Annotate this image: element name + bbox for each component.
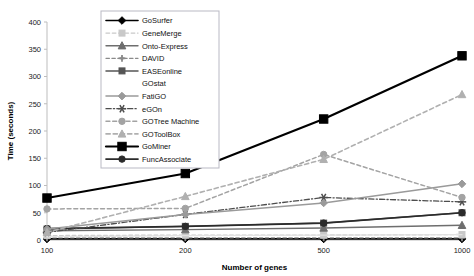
- marker-diamond: [458, 180, 466, 188]
- x-tick-label: 500: [317, 246, 330, 255]
- series-line: [47, 235, 462, 237]
- x-tick-label: 200: [179, 246, 192, 255]
- y-tick-label: 200: [28, 127, 41, 136]
- y-tick-label: 400: [28, 18, 41, 27]
- legend-item-label: GoMiner: [142, 142, 171, 151]
- legend: GoSurferGeneMergeOnto-ExpressDAVIDEASEon…: [101, 11, 219, 168]
- marker-circle: [459, 194, 465, 200]
- marker-circle: [320, 220, 326, 226]
- x-axis-ticks: 1002005001000: [41, 240, 471, 255]
- y-tick-label: 100: [28, 181, 41, 190]
- marker-diamond: [320, 199, 328, 207]
- x-tick-label: 100: [41, 246, 54, 255]
- marker-circle: [182, 205, 188, 211]
- marker-square: [181, 169, 189, 177]
- x-tick-label: 1000: [454, 246, 471, 255]
- y-tick-label: 250: [28, 100, 41, 109]
- legend-item-label: DAVID: [142, 54, 165, 63]
- line-chart: 0501001502002503003504001002005001000Num…: [0, 0, 474, 276]
- marker-cross-dot: [120, 57, 124, 61]
- legend-item-label: GOTree Machine: [142, 117, 199, 126]
- marker-square: [119, 30, 125, 36]
- marker-square: [458, 52, 466, 60]
- y-tick-label: 150: [28, 154, 41, 163]
- legend-item-label: EASEonline: [142, 67, 182, 76]
- marker-circle: [459, 210, 465, 216]
- x-axis-title: Number of genes: [222, 263, 288, 272]
- legend-item-gostat[interactable]: GOstat: [142, 79, 167, 88]
- legend-item-label: FuncAssociate: [142, 155, 191, 164]
- marker-square: [43, 194, 51, 202]
- marker-circle: [182, 223, 188, 229]
- y-tick-label: 350: [28, 45, 41, 54]
- marker-square: [119, 68, 125, 74]
- marker-square: [319, 115, 327, 123]
- legend-item-label: GeneMerge: [142, 29, 182, 38]
- series-gostat: [47, 235, 462, 237]
- y-tick-label: 50: [33, 209, 41, 218]
- legend-item-label: GoSurfer: [142, 16, 173, 25]
- y-tick-label: 300: [28, 72, 41, 81]
- y-axis-title: Time (seconds): [6, 101, 15, 160]
- legend-item-label: GOToolBox: [142, 130, 181, 139]
- y-tick-label: 0: [37, 236, 41, 245]
- marker-circle: [119, 118, 125, 124]
- legend-item-label: eGOn: [142, 105, 162, 114]
- chart-canvas: 0501001502002503003504001002005001000Num…: [0, 0, 474, 276]
- legend-item-label: Onto-Express: [142, 42, 188, 51]
- legend-item-label: FatiGO: [142, 92, 166, 101]
- marker-triangle: [458, 90, 466, 97]
- marker-circle: [119, 156, 125, 162]
- legend-item-label: GOstat: [142, 79, 167, 88]
- marker-circle: [44, 206, 50, 212]
- marker-square: [118, 142, 126, 150]
